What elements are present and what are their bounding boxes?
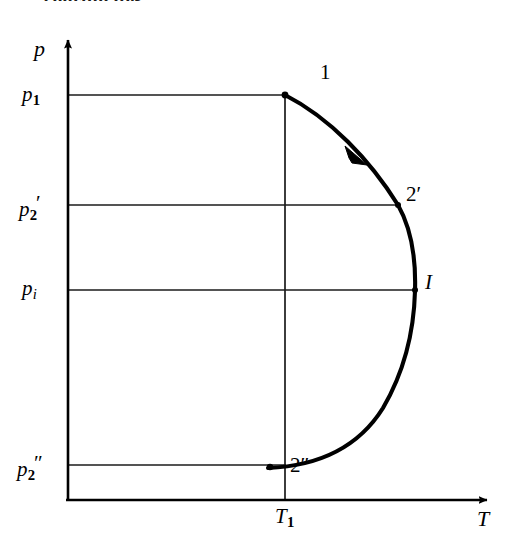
- tick-label-pi: pi: [22, 278, 37, 302]
- axis-lines: [66, 40, 487, 500]
- temperature-axis-label: T: [477, 508, 489, 530]
- state-point-markers: [267, 92, 418, 471]
- p-t-diagram-figure: coordinates.: [0, 0, 522, 552]
- tick-label-p2-double-prime-mark: ″: [34, 451, 43, 475]
- process-curve-group: [268, 95, 415, 468]
- tick-label-T1-subscript: 1: [287, 514, 294, 530]
- tick-label-T1: T1: [275, 506, 294, 530]
- state-point-marker-I: [412, 287, 418, 293]
- tick-label-pi-subscript: i: [33, 286, 37, 302]
- tick-label-p2-double-prime: p2″: [17, 453, 43, 483]
- state-point-marker-2pp: [267, 464, 273, 470]
- state-point-marker-2p: [395, 202, 401, 208]
- tick-label-pi-base: p: [22, 276, 33, 300]
- state-point-marker-1: [282, 92, 289, 99]
- tick-label-p1-base: p: [22, 82, 33, 106]
- pressure-axis-label: p: [34, 38, 45, 60]
- tick-label-p2-double-prime-base: p: [17, 457, 28, 481]
- tick-label-p1-subscript: 1: [33, 92, 40, 108]
- tick-label-p2-prime-base: p: [19, 197, 30, 221]
- diagram-canvas: [0, 0, 522, 552]
- tick-label-p2-prime-mark: ′: [36, 191, 41, 215]
- tick-label-p2-prime: p2′: [19, 193, 40, 223]
- state-point-label-1: 1: [320, 62, 331, 83]
- process-curve: [268, 95, 415, 468]
- tick-label-p1: p1: [22, 84, 40, 108]
- isobar-lines: [68, 95, 416, 465]
- state-point-label-I: I: [425, 272, 432, 293]
- state-point-label-2-prime: 2′: [406, 184, 421, 205]
- state-point-label-2-double-prime: 2″: [290, 455, 309, 476]
- tick-label-T1-base: T: [275, 504, 287, 528]
